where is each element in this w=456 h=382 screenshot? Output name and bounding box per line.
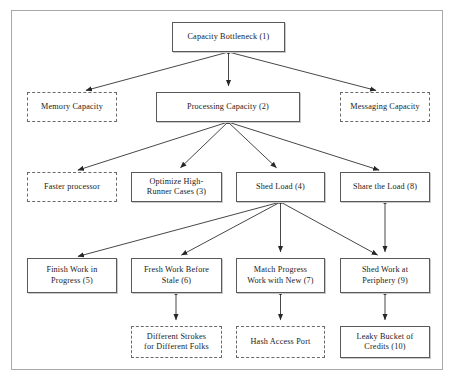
node-label-processing-capacity: Processing Capacity (2) — [187, 102, 269, 113]
node-label-leaky-bucket-of-credits: Leaky Bucket of Credits (10) — [356, 332, 413, 353]
node-shed-work-at-periphery[interactable]: Shed Work at Periphery (9) — [340, 258, 430, 293]
node-label-shed-load: Shed Load (4) — [256, 182, 305, 193]
node-label-fresh-work-before-stale: Fresh Work Before Stale (6) — [144, 265, 209, 286]
node-processing-capacity[interactable]: Processing Capacity (2) — [156, 92, 300, 122]
node-label-share-the-load: Share the Load (8) — [353, 182, 417, 193]
node-shed-load[interactable]: Shed Load (4) — [236, 172, 325, 202]
node-label-finish-work-in-progress: Finish Work in Progress (5) — [46, 265, 97, 286]
node-leaky-bucket-of-credits[interactable]: Leaky Bucket of Credits (10) — [340, 326, 430, 358]
node-label-faster-processor: Faster processor — [44, 182, 100, 193]
node-different-strokes-for-different-folks[interactable]: Different Strokes for Different Folks — [131, 326, 222, 358]
node-capacity-bottleneck[interactable]: Capacity Bottleneck (1) — [172, 22, 285, 52]
node-match-progress-work-with-new[interactable]: Match Progress Work with New (7) — [236, 258, 325, 293]
node-messaging-capacity[interactable]: Messaging Capacity — [340, 92, 430, 122]
node-label-memory-capacity: Memory Capacity — [41, 102, 103, 113]
node-share-the-load[interactable]: Share the Load (8) — [340, 172, 430, 202]
node-label-hash-access-port: Hash Access Port — [251, 337, 311, 348]
node-label-messaging-capacity: Messaging Capacity — [350, 102, 420, 113]
node-label-match-progress-work-with-new: Match Progress Work with New (7) — [247, 265, 313, 286]
diagram-canvas: Capacity Bottleneck (1)Memory CapacityPr… — [0, 0, 456, 382]
node-faster-processor[interactable]: Faster processor — [27, 172, 117, 202]
node-fresh-work-before-stale[interactable]: Fresh Work Before Stale (6) — [131, 258, 222, 293]
node-hash-access-port[interactable]: Hash Access Port — [236, 326, 325, 358]
node-label-capacity-bottleneck: Capacity Bottleneck (1) — [188, 32, 270, 43]
node-label-optimize-high-runner-cases: Optimize High- Runner Cases (3) — [147, 177, 206, 198]
node-label-shed-work-at-periphery: Shed Work at Periphery (9) — [362, 265, 408, 286]
node-memory-capacity[interactable]: Memory Capacity — [27, 92, 117, 122]
node-finish-work-in-progress[interactable]: Finish Work in Progress (5) — [27, 258, 117, 293]
node-label-different-strokes-for-different-folks: Different Strokes for Different Folks — [144, 332, 209, 353]
node-optimize-high-runner-cases[interactable]: Optimize High- Runner Cases (3) — [131, 172, 222, 202]
